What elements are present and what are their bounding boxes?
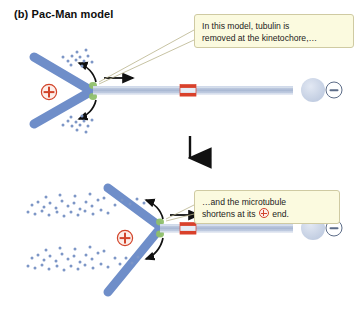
plus-end-marker-lower	[117, 230, 132, 245]
callout-2-text-after: end.	[270, 209, 289, 219]
photobleach-band-upper	[180, 85, 196, 97]
minus-end-marker-upper	[326, 82, 342, 98]
plus-end-marker-upper	[41, 84, 56, 99]
callout-leader-lower	[166, 205, 194, 221]
callout-kinetochore-removal: In this model, tubulin is removed at the…	[194, 14, 354, 48]
figure-panel: (b) Pac-Man model In this model, tubulin…	[0, 0, 361, 309]
callout-microtubule-shortens: …and the microtubule shortens at its end…	[194, 190, 340, 224]
page-title: (b) Pac-Man model	[14, 8, 114, 20]
plus-circle-icon	[259, 208, 269, 218]
callout-leader-upper	[99, 30, 194, 84]
photobleach-band-lower	[180, 223, 196, 235]
spindle-pole-upper	[301, 78, 325, 102]
